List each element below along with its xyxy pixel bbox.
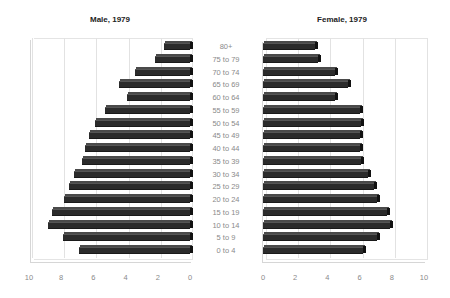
male-bar xyxy=(155,56,190,63)
female-bar xyxy=(263,196,377,203)
bar-top-face xyxy=(136,67,192,69)
female-bar xyxy=(263,107,360,114)
bar-top-face xyxy=(264,207,389,209)
male-bar xyxy=(74,171,190,178)
bar-top-face xyxy=(75,169,192,171)
female-bar xyxy=(263,120,361,127)
bar-top-face xyxy=(128,92,192,94)
bar-top-face xyxy=(53,207,192,209)
bar-top-face xyxy=(49,220,192,222)
bar-top-face xyxy=(120,79,192,81)
male-x-tick: 6 xyxy=(83,273,103,282)
age-group-label: 65 to 69 xyxy=(190,80,262,89)
bar-top-face xyxy=(264,105,362,107)
bar-end-cap xyxy=(318,55,321,62)
bar-top-face xyxy=(264,118,363,120)
female-bar xyxy=(263,247,363,254)
bar-top-face xyxy=(264,169,370,171)
bar-end-cap xyxy=(360,131,363,138)
male-x-tick: 4 xyxy=(116,273,136,282)
male-gridline xyxy=(32,38,33,258)
male-bar xyxy=(164,43,190,50)
female-bar xyxy=(263,222,390,229)
bar-top-face xyxy=(165,41,192,43)
bar-end-cap xyxy=(360,144,363,151)
male-x-tick: 8 xyxy=(51,273,71,282)
bar-top-face xyxy=(264,194,379,196)
age-group-label: 20 to 24 xyxy=(190,195,262,204)
bar-end-cap xyxy=(335,68,338,75)
male-bar xyxy=(63,234,190,241)
bar-top-face xyxy=(156,54,192,56)
male-bar xyxy=(95,120,190,127)
age-group-label: 25 to 29 xyxy=(190,182,262,191)
bar-top-face xyxy=(264,41,317,43)
bar-end-cap xyxy=(374,182,377,189)
male-bar xyxy=(52,209,190,216)
male-bar xyxy=(69,183,190,190)
age-group-label: 35 to 39 xyxy=(190,157,262,166)
female-gridline xyxy=(395,38,396,258)
age-group-label: 60 to 64 xyxy=(190,93,262,102)
female-bar xyxy=(263,183,374,190)
bar-end-cap xyxy=(387,208,390,215)
female-x-tick: 6 xyxy=(350,273,370,282)
female-bar xyxy=(263,94,335,101)
age-group-label: 70 to 74 xyxy=(190,68,262,77)
male-bar xyxy=(82,158,190,165)
bar-top-face xyxy=(264,130,362,132)
female-bar xyxy=(263,132,360,139)
bar-top-face xyxy=(264,232,379,234)
bar-end-cap xyxy=(390,221,393,228)
female-bar xyxy=(263,56,318,63)
female-bar xyxy=(263,171,368,178)
bar-top-face xyxy=(96,118,192,120)
bar-top-face xyxy=(264,245,365,247)
bar-end-cap xyxy=(363,246,366,253)
bar-top-face xyxy=(264,156,363,158)
age-group-label: 50 to 54 xyxy=(190,119,262,128)
male-bar xyxy=(48,222,190,229)
female-bar xyxy=(263,69,335,76)
bar-end-cap xyxy=(315,42,318,49)
bar-end-cap xyxy=(361,157,364,164)
male-bar xyxy=(85,145,190,152)
male-bar xyxy=(64,196,190,203)
male-bar xyxy=(89,132,190,139)
bar-top-face xyxy=(90,130,192,132)
bar-top-face xyxy=(64,232,192,234)
bar-top-face xyxy=(264,143,362,145)
age-group-label: 15 to 19 xyxy=(190,208,262,217)
bar-top-face xyxy=(86,143,192,145)
age-group-label: 40 to 44 xyxy=(190,144,262,153)
bar-end-cap xyxy=(335,93,338,100)
male-x-tick: 0 xyxy=(180,273,200,282)
male-bar xyxy=(135,69,190,76)
bar-top-face xyxy=(264,220,392,222)
bar-end-cap xyxy=(361,119,364,126)
female-bar xyxy=(263,234,377,241)
female-bar xyxy=(263,145,360,152)
male-x-tick: 10 xyxy=(19,273,39,282)
female-bar xyxy=(263,209,387,216)
bar-end-cap xyxy=(377,195,380,202)
age-group-label: 0 to 4 xyxy=(190,246,262,255)
age-group-label: 5 to 9 xyxy=(190,233,262,242)
age-group-label: 80+ xyxy=(190,42,262,51)
male-x-tick: 2 xyxy=(148,273,168,282)
bar-end-cap xyxy=(368,170,371,177)
age-group-label: 30 to 34 xyxy=(190,170,262,179)
female-bar xyxy=(263,158,361,165)
female-x-tick: 2 xyxy=(285,273,305,282)
bar-end-cap xyxy=(377,233,380,240)
bar-top-face xyxy=(264,79,350,81)
bar-top-face xyxy=(80,245,192,247)
male-bar xyxy=(127,94,190,101)
age-group-label: 55 to 59 xyxy=(190,106,262,115)
bar-top-face xyxy=(264,92,337,94)
female-gridline xyxy=(427,38,428,258)
male-bar xyxy=(119,81,190,88)
bar-top-face xyxy=(83,156,192,158)
bar-top-face xyxy=(264,54,320,56)
age-group-label: 75 to 79 xyxy=(190,55,262,64)
